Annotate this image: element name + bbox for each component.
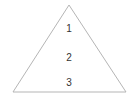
level-label-2: 2 bbox=[64, 53, 74, 63]
level-label-1: 1 bbox=[64, 24, 74, 34]
level-label-3: 3 bbox=[64, 78, 74, 88]
